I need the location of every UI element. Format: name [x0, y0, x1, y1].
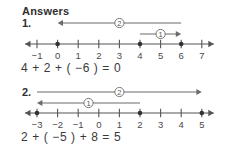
- equation-text: 2 + ( −5 ) + 8 = 5: [21, 130, 121, 144]
- svg-text:1: 1: [117, 119, 122, 130]
- problem-block-2: 2. −3−2−101234521 2 + ( −5 ) + 8 = 5: [0, 86, 239, 148]
- svg-text:0: 0: [55, 50, 60, 61]
- svg-text:2: 2: [117, 19, 121, 28]
- number-line-diagram: −10123456712: [0, 17, 239, 63]
- number-line-2: −3−2−101234521: [0, 86, 239, 132]
- svg-text:−2: −2: [52, 119, 63, 130]
- svg-text:0: 0: [96, 119, 101, 130]
- svg-text:2: 2: [137, 119, 142, 130]
- problem-block-1: 1. −10123456712 4 + 2 + ( −6 ) = 0: [0, 17, 239, 79]
- number-line-1: −10123456712: [0, 17, 239, 63]
- svg-text:−1: −1: [73, 119, 84, 130]
- svg-text:6: 6: [179, 50, 184, 61]
- page-title: Answers: [22, 5, 69, 17]
- svg-text:4: 4: [179, 119, 184, 130]
- svg-text:2: 2: [117, 88, 121, 97]
- svg-text:5: 5: [199, 119, 204, 130]
- svg-text:5: 5: [158, 50, 163, 61]
- svg-text:4: 4: [137, 50, 142, 61]
- svg-text:2: 2: [96, 50, 101, 61]
- svg-text:3: 3: [117, 50, 122, 61]
- svg-text:1: 1: [159, 30, 163, 39]
- equation-text: 4 + 2 + ( −6 ) = 0: [21, 61, 121, 75]
- svg-text:7: 7: [199, 50, 204, 61]
- svg-text:3: 3: [158, 119, 163, 130]
- number-line-diagram: −3−2−101234521: [0, 86, 239, 132]
- svg-text:−3: −3: [32, 119, 43, 130]
- answers-page: Answers 1. −10123456712 4 + 2 + ( −6 ) =…: [0, 0, 239, 159]
- svg-text:−1: −1: [32, 50, 43, 61]
- svg-text:1: 1: [76, 50, 81, 61]
- svg-text:1: 1: [86, 99, 90, 108]
